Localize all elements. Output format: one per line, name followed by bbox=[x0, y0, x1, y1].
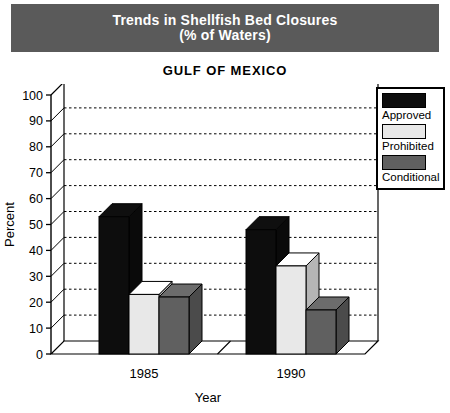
bar-front-face bbox=[159, 297, 189, 354]
chart-legend: Approved Prohibited Conditional bbox=[376, 87, 445, 190]
y-axis-label: Percent bbox=[2, 202, 17, 247]
title-line-1: Trends in Shellfish Bed Closures bbox=[112, 13, 337, 28]
y-axis bbox=[46, 84, 64, 354]
bar bbox=[159, 284, 202, 354]
x-tick-label: 1985 bbox=[130, 366, 159, 381]
bar-group bbox=[99, 204, 349, 354]
legend-item-conditional: Conditional bbox=[382, 155, 440, 184]
y-axis-tick-connector bbox=[51, 186, 64, 199]
legend-label-conditional: Conditional bbox=[382, 171, 440, 184]
legend-label-approved: Approved bbox=[382, 109, 440, 122]
y-tick-label: 20 bbox=[29, 296, 43, 310]
legend-swatch-approved bbox=[382, 93, 426, 108]
bar-front-face bbox=[99, 217, 129, 354]
y-tick-label: 70 bbox=[29, 166, 43, 180]
bar bbox=[306, 297, 349, 354]
bar-front-face bbox=[276, 266, 306, 354]
chart-title: GULF OF MEXICO bbox=[0, 63, 450, 78]
y-tick-label: 90 bbox=[29, 114, 43, 128]
legend-swatch-conditional bbox=[382, 155, 426, 170]
y-axis-tick-connector bbox=[51, 237, 64, 250]
y-axis-tick-connector bbox=[51, 289, 64, 302]
bar-front-face bbox=[246, 230, 276, 354]
legend-label-prohibited: Prohibited bbox=[382, 140, 440, 153]
x-axis-label: Year bbox=[195, 390, 222, 405]
y-axis-tick-connector bbox=[51, 212, 64, 225]
legend-item-prohibited: Prohibited bbox=[382, 124, 440, 153]
bar-front-face bbox=[306, 310, 336, 354]
y-axis-tick-connector bbox=[51, 108, 64, 121]
y-axis-tick-labels: 0102030405060708090100 bbox=[22, 89, 43, 362]
title-banner: Trends in Shellfish Bed Closures (% of W… bbox=[11, 4, 439, 52]
y-tick-label: 80 bbox=[29, 140, 43, 154]
y-tick-label: 60 bbox=[29, 192, 43, 206]
y-tick-label: 40 bbox=[29, 244, 43, 258]
y-axis-tick-connector bbox=[51, 263, 64, 276]
y-tick-label: 50 bbox=[29, 218, 43, 232]
y-tick-label: 10 bbox=[29, 322, 43, 336]
legend-item-approved: Approved bbox=[382, 93, 440, 122]
y-tick-label: 30 bbox=[29, 270, 43, 284]
y-axis-tick-connector bbox=[51, 134, 64, 147]
x-axis-tick-labels: 19851990 bbox=[130, 366, 306, 381]
y-axis-tick-connector bbox=[51, 315, 64, 328]
bar-front-face bbox=[129, 294, 159, 354]
title-line-2: (% of Waters) bbox=[179, 28, 271, 43]
x-tick-label: 1990 bbox=[277, 366, 306, 381]
y-tick-label: 0 bbox=[36, 348, 43, 362]
y-axis-tick-connector bbox=[51, 160, 64, 173]
y-tick-label: 100 bbox=[22, 89, 43, 103]
y-axis-tick-connector bbox=[51, 84, 64, 95]
legend-swatch-prohibited bbox=[382, 124, 426, 139]
